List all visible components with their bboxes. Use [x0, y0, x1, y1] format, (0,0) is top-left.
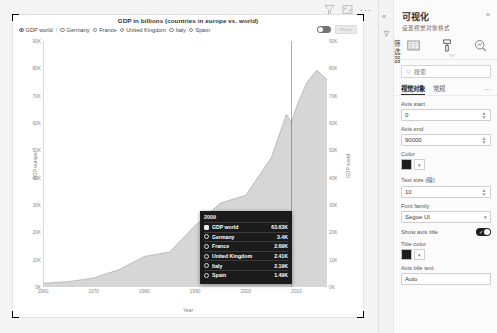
field-label: Title color [401, 241, 491, 247]
y-tick-label: 80K [32, 66, 41, 71]
analytics-tab[interactable] [467, 35, 493, 55]
y2-tick-label: 70K [329, 93, 338, 98]
field-label: Show axis title [401, 229, 438, 235]
tooltip-label: GDP world [212, 224, 268, 230]
field-label: Axis end [401, 126, 491, 132]
legend-item-germany[interactable]: Germany [60, 27, 90, 33]
legend-item-france[interactable]: France [93, 27, 117, 33]
y2-tick-label: 90K [329, 39, 338, 44]
tooltip-label: Italy [212, 263, 271, 269]
chevron-down-icon[interactable]: ▾ [414, 249, 425, 260]
tooltip-value: 2.69K [274, 243, 288, 249]
chart-title: GDP in billions (countries in europe vs.… [13, 17, 363, 24]
field-value: 10 [405, 189, 412, 195]
chart-legend: GDP world | Germany France United Kingdo… [19, 27, 303, 33]
chevron-down-icon[interactable]: ▾ [414, 159, 425, 170]
y2-tick-label: 10K [329, 257, 338, 262]
tooltip-label: France [212, 243, 271, 249]
stepper-arrows[interactable]: ▲▼ [480, 111, 488, 119]
radio-icon[interactable] [93, 28, 98, 33]
search-box[interactable] [401, 65, 491, 78]
axis-end-input[interactable]: 90000 ▲▼ [401, 134, 491, 146]
title-color-picker[interactable]: ▾ [401, 249, 491, 260]
subtab-more-icon[interactable]: ··· [484, 87, 491, 92]
y-axis-right-title: GDP world [345, 154, 351, 178]
toggle-switch-icon[interactable]: ✓ [476, 228, 491, 236]
x-tick-label: 1970 [88, 289, 99, 294]
color-swatch[interactable] [401, 159, 412, 170]
chart-visual-container[interactable]: GDP in billions (countries in europe vs.… [12, 14, 364, 318]
color-swatch[interactable] [401, 249, 412, 260]
x-tick-label: 2000 [241, 289, 252, 294]
subtab-visual[interactable]: 视觉对象 [401, 84, 425, 95]
tooltip-row: GDP world 63.63K [204, 222, 288, 232]
pane-subtabs: 视觉对象 常规 ··· [401, 84, 491, 95]
active-tab-caret [448, 54, 456, 58]
legend-item-gdp-world[interactable]: GDP world [19, 27, 53, 33]
field-label: Axis title text [401, 265, 491, 271]
toggle-switch-icon[interactable] [317, 26, 331, 33]
collapse-pane-icon[interactable]: « [382, 13, 386, 20]
tooltip-value: 2.41K [274, 253, 288, 259]
build-visual-tab[interactable] [400, 35, 426, 55]
radio-icon[interactable] [120, 28, 125, 33]
tooltip-value: 63.63K [271, 224, 288, 230]
tooltip-label: Germany [212, 234, 274, 240]
more-options-icon[interactable]: ··· [360, 6, 372, 14]
axis-title-text-input[interactable]: Auto [401, 273, 491, 285]
y2-tick-label: 20K [329, 230, 338, 235]
legend-separator: | [56, 27, 57, 33]
radio-icon[interactable] [169, 28, 174, 33]
x-tick-label: 2010 [291, 289, 302, 294]
pane-title: 可视化 [402, 10, 429, 23]
stepper-arrows[interactable]: ▲▼ [480, 188, 488, 196]
y-tick-label: 10K [32, 257, 41, 262]
tooltip-year: 2009 [204, 214, 288, 220]
field-label: Text size (磅) [401, 175, 491, 184]
subtabs-rule [394, 95, 497, 96]
y2-tick-label: 30K [329, 203, 338, 208]
series-toggle[interactable] [317, 26, 331, 33]
format-fields-list: Axis start 0 ▲▼ Axis end 90000 ▲▼ Color [401, 101, 491, 333]
field-label: Axis start [401, 101, 491, 107]
y-tick-label: 20K [32, 230, 41, 235]
x-tick-label: 1980 [139, 289, 150, 294]
filter-pane-icon[interactable] [383, 30, 390, 37]
radio-icon[interactable] [60, 28, 65, 33]
format-visual-tab[interactable] [434, 35, 460, 55]
legend-label: United Kingdom [126, 27, 166, 33]
search-input[interactable] [414, 69, 486, 75]
subtab-general[interactable]: 常规 [433, 84, 445, 95]
visualizations-pane: « 筛选器 可视化 » 设置视觉对象格式 [378, 0, 497, 333]
color-picker[interactable]: ▾ [401, 159, 491, 170]
stepper-arrows[interactable]: ▲▼ [480, 136, 488, 144]
y2-tick-label: 50K [329, 148, 338, 153]
font-family-dropdown[interactable]: Segoe UI ▾ [401, 211, 491, 223]
field-show-axis-title[interactable]: Show axis title ✓ [401, 228, 491, 236]
field-axis-title-text: Axis title text Auto [401, 265, 491, 285]
field-value: Segoe UI [405, 214, 430, 220]
radio-icon[interactable] [19, 28, 24, 33]
y2-tick-label: 80K [329, 66, 338, 71]
series-marker-icon [204, 254, 209, 259]
search-icon [406, 69, 411, 75]
series-marker-icon [204, 225, 209, 230]
format-pane-body: 可视化 » 设置视觉对象格式 [394, 0, 497, 333]
y-axis-left-title: GDP europe [32, 152, 38, 180]
expand-pane-icon[interactable]: » [486, 11, 490, 18]
tooltip-label: United Kingdom [212, 253, 271, 259]
legend-label: Italy [176, 27, 186, 33]
field-text-size: Text size (磅) 10 ▲▼ [401, 175, 491, 198]
legend-item-united-kingdom[interactable]: United Kingdom [120, 27, 166, 33]
text-size-input[interactable]: 10 ▲▼ [401, 186, 491, 198]
reset-button[interactable]: Reset [335, 25, 357, 34]
tooltip-value: 2.19K [274, 263, 288, 269]
filter-pane-rail[interactable]: « 筛选器 [379, 0, 394, 333]
legend-item-italy[interactable]: Italy [169, 27, 186, 33]
legend-item-spain[interactable]: Spain [189, 27, 210, 33]
y-tick-label: 70K [32, 93, 41, 98]
radio-icon[interactable] [189, 28, 194, 33]
field-axis-start: Axis start 0 ▲▼ [401, 101, 491, 121]
axis-start-input[interactable]: 0 ▲▼ [401, 109, 491, 121]
field-color: Color ▾ [401, 151, 491, 170]
